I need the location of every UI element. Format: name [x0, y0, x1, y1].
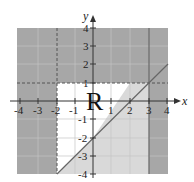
x-tick-label: -4: [14, 104, 24, 116]
x-tick-label: 2: [127, 104, 133, 116]
graph: -4 -3 -2 -1 1 2 3 4 4 3 2 1 -1 -2 -3 -4 …: [0, 0, 194, 182]
region-label: R: [86, 87, 104, 116]
x-tick-label: -3: [33, 104, 43, 116]
y-axis-arrow-icon: [90, 15, 96, 22]
y-tick-label: -4: [78, 168, 88, 180]
y-tick-label: 2: [83, 58, 89, 70]
x-axis-label: x: [181, 94, 188, 108]
x-tick-label: -1: [69, 104, 78, 116]
x-tick-label: 4: [164, 104, 170, 116]
y-axis-label: y: [82, 9, 89, 23]
y-tick-label: -2: [78, 132, 87, 144]
x-axis-arrow-icon: [174, 98, 181, 104]
x-tick-label: 1: [108, 104, 114, 116]
y-tick-label: -3: [78, 150, 88, 162]
x-tick-label: 3: [146, 104, 152, 116]
y-tick-label: 3: [83, 40, 89, 52]
y-tick-label: 4: [83, 22, 89, 34]
x-tick-label: -2: [51, 104, 60, 116]
